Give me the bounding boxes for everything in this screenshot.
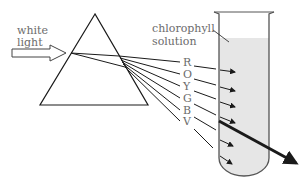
prism [40, 14, 148, 105]
spectrum-label-v: V [182, 115, 192, 128]
solution-fill [219, 38, 269, 176]
chlorophyll-label-line1: chlorophyll [152, 22, 215, 35]
chlorophyll-label-line2: solution [152, 35, 197, 48]
spectrum-labels: R O Y G B V [182, 56, 192, 128]
test-tube [214, 12, 274, 176]
white-light-label-line2: light [17, 36, 43, 49]
prism-chlorophyll-diagram: R O Y G B V white light chlorophyll solu… [0, 0, 307, 183]
refracted-rays [71, 53, 180, 121]
